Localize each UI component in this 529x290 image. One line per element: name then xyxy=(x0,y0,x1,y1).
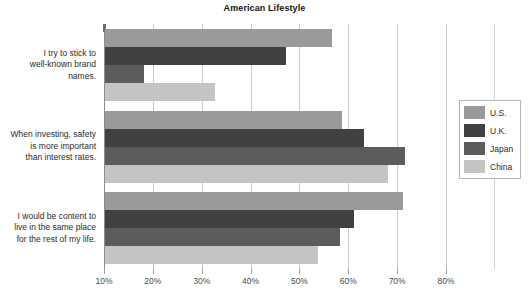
bar-china-group1 xyxy=(105,83,215,101)
legend-swatch-icon xyxy=(464,106,485,119)
bar-china-group2 xyxy=(105,165,388,183)
bar-japan-group1 xyxy=(105,65,144,83)
x-tick-label: 60% xyxy=(340,276,357,286)
legend-label: China xyxy=(490,162,512,172)
bar-china-group3 xyxy=(105,246,318,264)
category-label-line: is more important xyxy=(0,141,96,153)
legend-swatch-icon xyxy=(464,160,485,173)
bar-uk-group1 xyxy=(105,47,286,65)
bar-uk-group3 xyxy=(105,210,354,228)
legend-label: U.S. xyxy=(490,108,507,118)
category-label-line: live in the same place xyxy=(0,222,96,234)
x-tick-label: 80% xyxy=(437,276,454,286)
x-tick-label: 40% xyxy=(242,276,259,286)
category-label-line: I would be content to xyxy=(0,211,96,223)
bar-japan-group2 xyxy=(105,147,405,165)
x-tick-label: 30% xyxy=(193,276,210,286)
legend-swatch-icon xyxy=(464,124,485,137)
bar-japan-group3 xyxy=(105,228,340,246)
x-tick-label: 10% xyxy=(95,276,112,286)
x-tick xyxy=(397,269,398,274)
legend-item-us[interactable]: U.S. xyxy=(464,105,517,120)
category-label-2: When investing, safetyis more importantt… xyxy=(0,129,96,164)
bar-us-group1 xyxy=(105,29,332,47)
category-label-3: I would be content tolive in the same pl… xyxy=(0,211,96,246)
category-label-line: well-known brand xyxy=(0,59,96,71)
x-tick-label: 20% xyxy=(144,276,161,286)
legend-item-uk[interactable]: U.K. xyxy=(464,123,517,138)
category-label-line: than interest rates. xyxy=(0,152,96,164)
x-tick-label: 70% xyxy=(389,276,406,286)
category-label-line: When investing, safety xyxy=(0,129,96,141)
x-tick xyxy=(251,269,252,274)
x-tick xyxy=(153,269,154,274)
category-label-1: I try to stick towell-known brandnames. xyxy=(0,48,96,83)
chart-container: American Lifestyle 10%20%30%40%50%60%70%… xyxy=(0,0,529,290)
plot-area: 10%20%30%40%50%60%70%80% xyxy=(104,24,446,269)
category-label-line: names. xyxy=(0,71,96,83)
bar-us-group2 xyxy=(105,111,342,129)
legend-label: U.K. xyxy=(490,126,507,136)
x-tick xyxy=(348,269,349,274)
category-label-line: for the rest of my life. xyxy=(0,234,96,246)
x-tick xyxy=(104,269,105,274)
chart-legend: U.S.U.K.JapanChina xyxy=(459,100,521,179)
x-tick-label: 50% xyxy=(291,276,308,286)
bar-us-group3 xyxy=(105,192,403,210)
bar-uk-group2 xyxy=(105,129,364,147)
x-tick xyxy=(202,269,203,274)
legend-item-china[interactable]: China xyxy=(464,159,517,174)
legend-swatch-icon xyxy=(464,142,485,155)
x-tick xyxy=(446,269,447,274)
x-tick xyxy=(299,269,300,274)
gridline xyxy=(446,24,447,269)
chart-title: American Lifestyle xyxy=(0,3,529,13)
legend-label: Japan xyxy=(490,144,513,154)
legend-item-japan[interactable]: Japan xyxy=(464,141,517,156)
category-label-line: I try to stick to xyxy=(0,48,96,60)
